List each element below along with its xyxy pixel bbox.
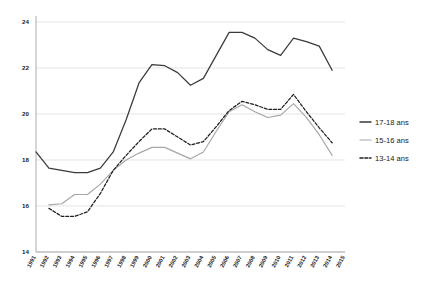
x-tick-label: 2015 [335, 255, 346, 269]
legend-label: 17-18 ans [375, 118, 409, 127]
series-line-13-14-ans [49, 94, 332, 216]
x-tick-label: 2004 [193, 254, 205, 269]
series-lines [36, 32, 332, 216]
x-tick-label: 2014 [322, 254, 334, 269]
x-tick-label: 2009 [257, 255, 268, 269]
x-tick-label: 2012 [296, 255, 307, 269]
x-tick-label: 2011 [283, 255, 294, 269]
x-tick-label: 2000 [142, 255, 153, 269]
chart-canvas: 141618202224 199119921993199419951996199… [0, 0, 440, 293]
x-tick-label: 2003 [180, 255, 191, 269]
y-axis-tick-labels: 141618202224 [22, 18, 29, 255]
y-tick-label: 20 [22, 110, 29, 117]
x-tick-label: 1993 [51, 255, 62, 269]
gridlines [36, 22, 345, 252]
x-tick-label: 2001 [154, 255, 165, 269]
x-tick-label: 2002 [167, 255, 178, 269]
series-line-17-18-ans [36, 32, 332, 172]
x-tick-label: 2013 [309, 255, 320, 269]
x-tick-label: 1992 [39, 255, 50, 269]
y-tick-label: 24 [22, 18, 29, 25]
x-tick-label: 1997 [103, 255, 114, 269]
series-line-15-16-ans [49, 104, 332, 205]
y-tick-label: 22 [22, 64, 29, 71]
axis-lines [36, 16, 345, 252]
x-tick-label: 1991 [26, 255, 37, 269]
x-tick-label: 1996 [90, 255, 101, 269]
x-tick-label: 2010 [270, 255, 281, 269]
x-tick-label: 1995 [77, 255, 88, 269]
x-tick-label: 2008 [245, 255, 256, 269]
y-tick-label: 14 [22, 248, 29, 255]
x-tick-label: 2007 [232, 255, 243, 269]
x-tick-label: 1994 [64, 254, 76, 269]
x-tick-label: 1998 [116, 255, 127, 269]
x-tick-label: 2005 [206, 255, 217, 269]
x-tick-label: 1999 [129, 255, 140, 269]
x-axis-tick-labels: 1991199219931994199519961997199819992000… [26, 254, 346, 269]
y-tick-label: 16 [22, 202, 29, 209]
chart-legend: 17-18 ans15-16 ans13-14 ans [360, 118, 409, 163]
line-chart: 141618202224 199119921993199419951996199… [0, 0, 440, 293]
legend-label: 13-14 ans [375, 154, 409, 163]
x-tick-label: 2006 [219, 255, 230, 269]
legend-label: 15-16 ans [375, 136, 409, 145]
y-tick-label: 18 [22, 156, 29, 163]
